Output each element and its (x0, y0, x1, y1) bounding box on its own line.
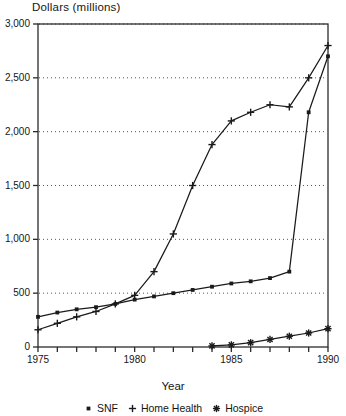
x-tick-label: 1975 (18, 354, 58, 365)
series-home-health (34, 42, 331, 333)
legend-item-snf[interactable]: SNF (83, 402, 118, 414)
legend-item-hospice[interactable]: Hospice (211, 402, 263, 414)
plus-icon (127, 403, 138, 414)
x-tick-label: 1980 (115, 354, 155, 365)
y-tick-label: 0 (0, 341, 30, 352)
x-tick-label: 1990 (308, 354, 346, 365)
asterisk-icon (211, 403, 222, 414)
chart-legend: SNFHome HealthHospice (0, 402, 346, 414)
x-tick-label: 1985 (211, 354, 251, 365)
legend-label: Hospice (225, 402, 263, 414)
y-tick-label: 2,000 (0, 126, 30, 137)
series-snf (36, 54, 330, 318)
y-tick-label: 1,500 (0, 180, 30, 191)
legend-label: Home Health (141, 402, 202, 414)
y-tick-label: 2,500 (0, 72, 30, 83)
x-axis-title: Year (0, 380, 346, 392)
chart-container: Dollars (millions) 05001,0001,5002,0002,… (0, 0, 346, 416)
square-icon (83, 403, 94, 414)
legend-item-home-health[interactable]: Home Health (127, 402, 202, 414)
series-hospice (208, 325, 331, 349)
legend-label: SNF (97, 402, 118, 414)
y-tick-label: 1,000 (0, 233, 30, 244)
y-tick-label: 3,000 (0, 18, 30, 29)
y-tick-label: 500 (0, 287, 30, 298)
